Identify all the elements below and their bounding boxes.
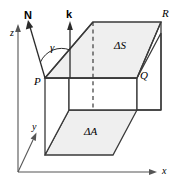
y-axis [18,133,37,173]
z-axis [15,24,21,172]
diagram-svg [0,0,174,188]
z-axis-label: z [10,28,14,38]
x-axis-label: x [162,166,166,176]
front-face [69,78,137,110]
point-R-label: R [162,8,169,19]
gamma-angle-label: γ [50,42,54,53]
projected-area-label: ΔA [84,126,97,137]
y-axis-label: y [32,122,36,132]
unit-k-vector-label: k [66,9,72,20]
point-P-label: P [34,76,41,87]
normal-vector-label: N [24,10,32,21]
figure-canvas: N k γ P Q R ΔS ΔA z y x [0,0,174,188]
prism-group [45,22,161,155]
point-Q-label: Q [140,70,148,81]
surface-element-label: ΔS [114,40,126,51]
x-axis [18,169,157,175]
normal-vector [26,20,45,78]
